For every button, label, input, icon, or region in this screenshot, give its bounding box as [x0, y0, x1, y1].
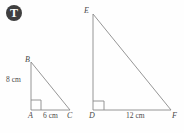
measurement-label-df: 12 cm [126, 111, 145, 120]
triangle-abc-shape [31, 62, 70, 110]
triangle-def-outline [93, 14, 171, 110]
triangle-def-shape [93, 14, 171, 110]
measurement-label-ab: 8 cm [6, 75, 21, 84]
right-angle-mark-a [31, 100, 41, 110]
measurement-label-ac: 6 cm [43, 111, 58, 120]
vertex-label-d: D [89, 111, 95, 120]
vertex-label-a: A [28, 111, 33, 120]
vertex-label-c: C [67, 111, 72, 120]
triangle-abc-outline [31, 62, 70, 110]
right-angle-mark-d [93, 101, 104, 110]
vertex-label-f: F [172, 111, 177, 120]
geometry-figure-page: T B A C E D F 8 cm 6 cm 12 cm [0, 0, 184, 133]
vertex-label-e: E [84, 6, 89, 15]
vertex-label-b: B [25, 55, 30, 64]
